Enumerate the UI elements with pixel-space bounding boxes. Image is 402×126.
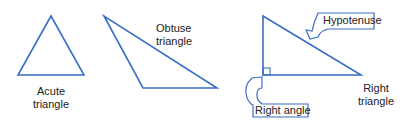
right-label-line2: triangle <box>354 95 398 108</box>
acute-label-line2: triangle <box>26 98 76 111</box>
hypotenuse-callout-label: Hypotenuse <box>320 14 385 27</box>
acute-label-line1: Acute <box>26 85 76 98</box>
obtuse-label-line1: Obtuse <box>156 22 206 35</box>
acute-triangle <box>18 16 84 75</box>
obtuse-label-line2: triangle <box>156 35 206 48</box>
right-angle-callout-label: Right angle <box>252 104 314 117</box>
acute-triangle-label: Acute triangle <box>26 85 76 111</box>
obtuse-triangle-label: Obtuse triangle <box>156 22 206 48</box>
right-triangle-label: Right triangle <box>354 82 398 108</box>
right-label-line1: Right <box>354 82 398 95</box>
right-angle-marker <box>263 68 270 75</box>
